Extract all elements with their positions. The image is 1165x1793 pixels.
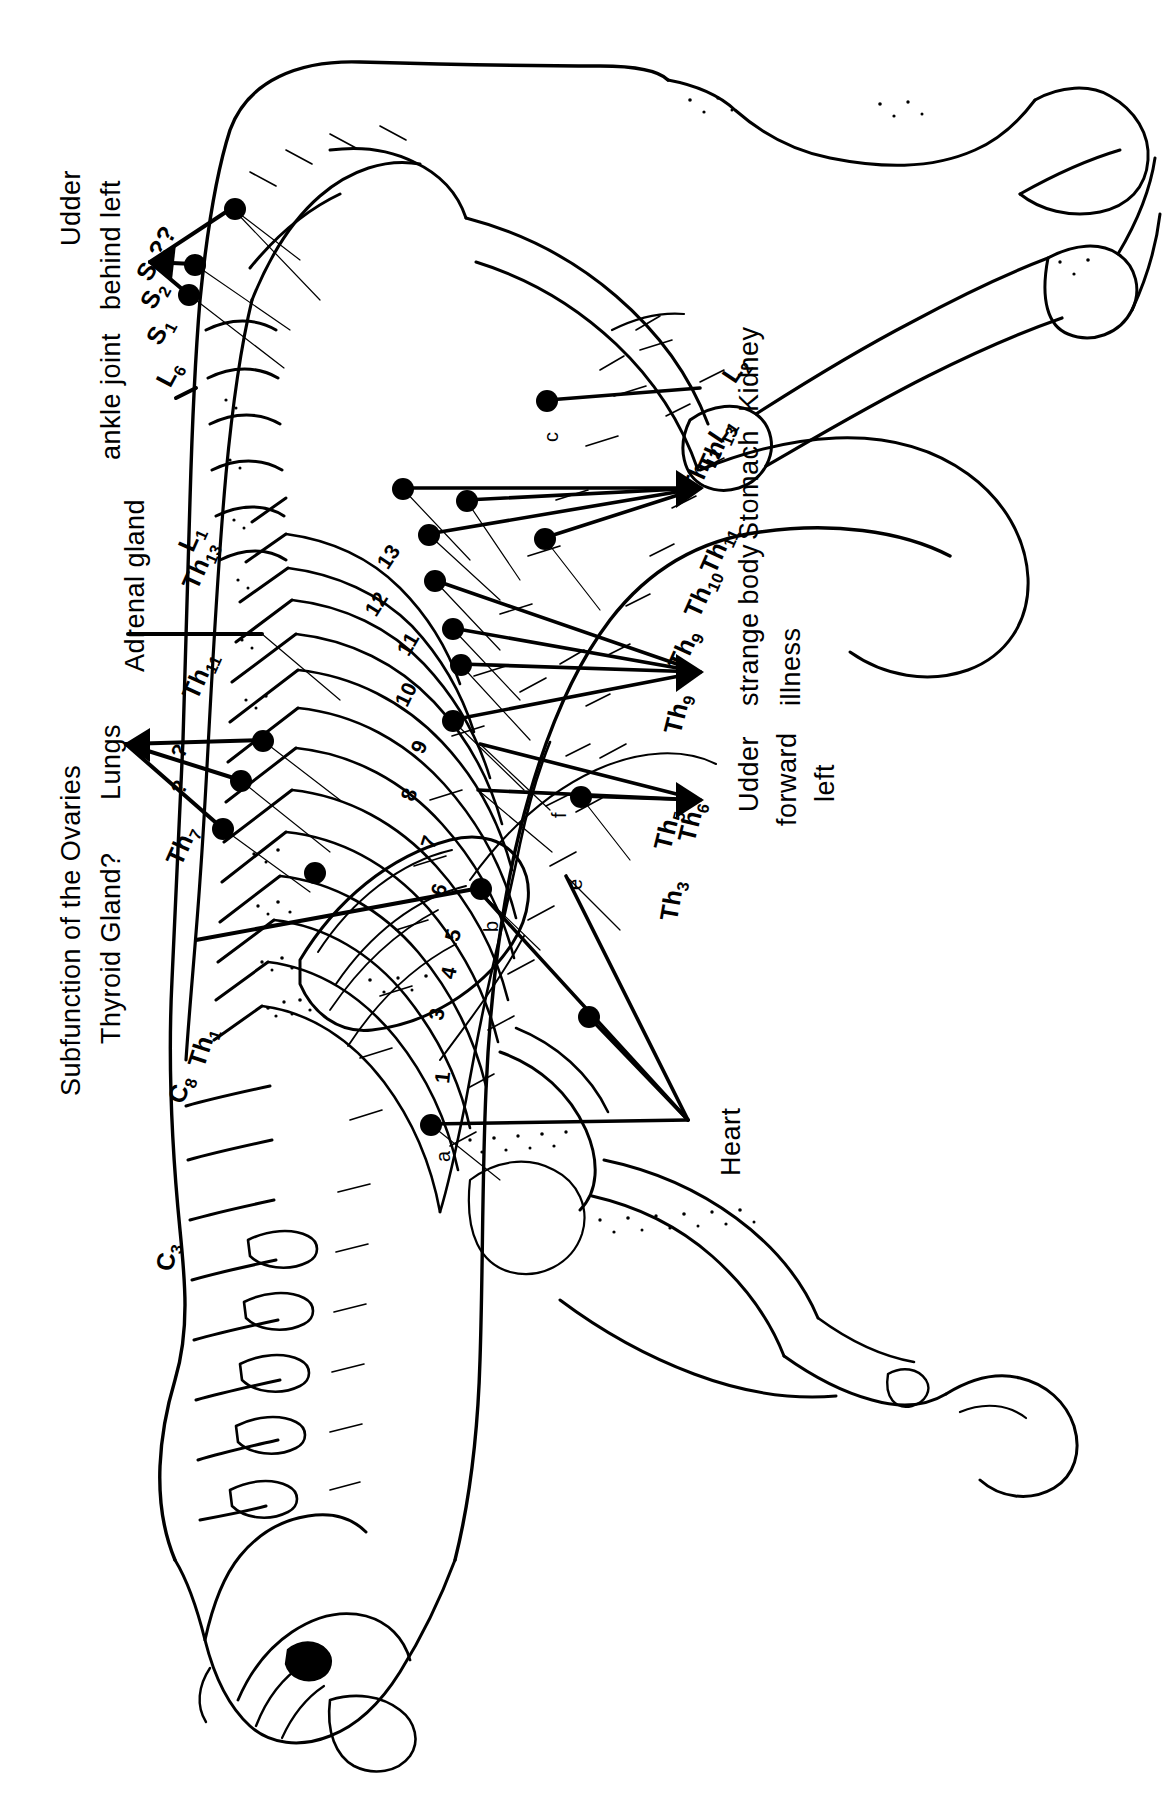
reference-dot[interactable] [178,284,200,306]
reference-dot[interactable] [184,254,206,276]
reference-dot[interactable] [442,618,464,640]
reference-dot[interactable] [578,1006,600,1028]
reference-dot-a[interactable] [420,1114,442,1136]
label-stomach: Stomach [734,430,765,540]
label-udder-behind-left-line1: Udder [56,170,87,246]
segment-label-c3: C3 [150,1241,187,1274]
reference-dot[interactable] [418,524,440,546]
label-heart: Heart [716,1107,747,1176]
rib-number-1: 1 [430,1070,455,1085]
reference-dot[interactable] [252,730,274,752]
label-udder-forward-left-udder: Udder [734,736,765,812]
point-marker-a: a [432,1150,455,1162]
reference-dot[interactable] [470,878,492,900]
reference-dot[interactable] [230,770,252,792]
segment-base: Th [654,887,687,923]
label-udder-forward-left-left: left [810,764,841,802]
point-marker-f: f [548,812,571,818]
label-subfunction-of-the-ovaries: Subfunction of the Ovaries [56,765,87,1096]
label-udder-forward-left-forward: forward [772,732,803,826]
reference-dot[interactable] [456,490,478,512]
reference-dot[interactable] [212,818,234,840]
label-illness: illness [776,627,807,706]
reference-dot[interactable] [450,654,472,676]
point-marker-b: b [480,920,503,932]
reference-dot[interactable] [224,198,246,220]
label-udder-behind-left-line2: behind left [96,180,127,310]
label-adrenal-gland: Adrenal gland [120,499,151,672]
point-marker-e: e [564,878,587,890]
reference-dot[interactable] [570,786,592,808]
reference-dot[interactable] [442,710,464,732]
label-lungs: Lungs [96,724,127,800]
point-marker-c: c [540,432,563,443]
reference-dot[interactable] [392,478,414,500]
label-strange-body: strange body [734,544,765,706]
label-thyroid-gland: Thyroid Gland? [96,852,127,1044]
label-ankle-joint: ankle joint [96,333,127,460]
reference-dot-c[interactable] [536,390,558,412]
diagram-canvas: Udder behind left ankle joint Adrenal gl… [0,0,1165,1793]
reference-dot[interactable] [424,570,446,592]
cow-skeleton-illustration [0,0,1165,1793]
reference-dot[interactable] [304,862,326,884]
segment-label-th3: Th3 [654,878,693,924]
reference-dot[interactable] [534,528,556,550]
